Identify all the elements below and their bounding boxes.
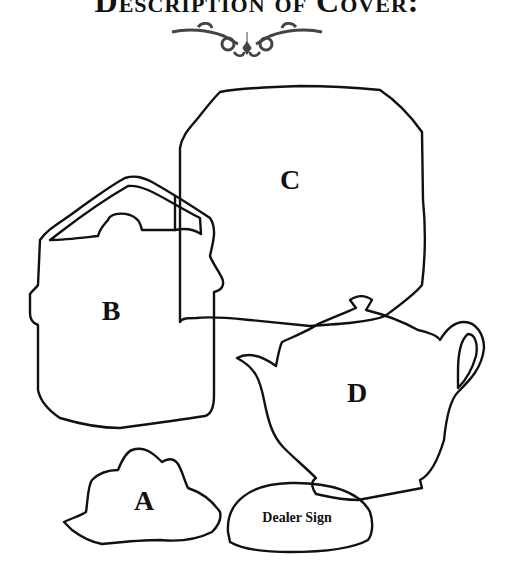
label-c: C <box>280 164 300 196</box>
label-b: B <box>102 295 121 327</box>
label-a: A <box>134 485 154 517</box>
label-dealer-sign: Dealer Sign <box>262 510 331 526</box>
label-d: D <box>347 377 367 409</box>
shape-d-handle-hole <box>458 334 477 388</box>
cover-diagram <box>0 0 514 582</box>
